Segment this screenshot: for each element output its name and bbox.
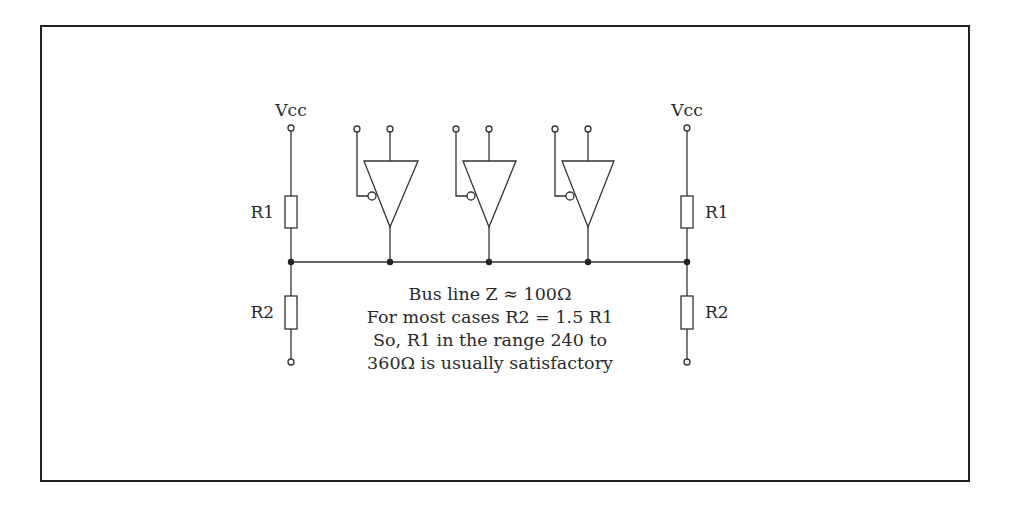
right-r1-label: R1 xyxy=(705,202,729,222)
driver-3-enable-bubble xyxy=(566,192,574,200)
driver-1-enable-bubble xyxy=(368,192,376,200)
driver-3-data-terminal xyxy=(585,126,591,132)
tristate-buffer-driver-2 xyxy=(453,126,516,262)
right-r2-resistor xyxy=(681,296,693,329)
junction-dot-right xyxy=(684,259,690,265)
right-vcc-terminal xyxy=(684,125,690,131)
note-line-1: Bus line Z ≈ 100Ω xyxy=(409,284,572,304)
note-line-4: 360Ω is usually satisfactory xyxy=(367,353,613,373)
left-r1-label: R1 xyxy=(250,202,274,222)
diagram-frame xyxy=(41,26,969,481)
right-r1-resistor xyxy=(681,196,693,228)
left-ground-terminal xyxy=(288,359,294,365)
driver-2-enable-terminal xyxy=(453,126,459,132)
junction-dot-left xyxy=(288,259,294,265)
right-termination-network xyxy=(681,125,693,365)
tristate-buffer-driver-1 xyxy=(354,126,418,262)
left-r2-label: R2 xyxy=(250,302,274,322)
design-notes: Bus line Z ≈ 100Ω For most cases R2 = 1.… xyxy=(367,284,613,373)
note-line-3: So, R1 in the range 240 to xyxy=(373,330,607,350)
driver-1-enable-terminal xyxy=(354,126,360,132)
driver-3-enable-terminal xyxy=(552,126,558,132)
driver-2-enable-bubble xyxy=(467,192,475,200)
left-vcc-terminal xyxy=(288,125,294,131)
left-r1-resistor xyxy=(285,196,297,228)
left-r2-resistor xyxy=(285,296,297,329)
right-ground-terminal xyxy=(684,359,690,365)
left-vcc-label: Vcc xyxy=(274,100,306,120)
tristate-buffer-driver-3 xyxy=(552,126,614,262)
right-r2-label: R2 xyxy=(705,302,729,322)
bus-termination-diagram: Vcc R1 R2 Vcc R1 R2 xyxy=(0,0,1011,507)
note-line-2: For most cases R2 = 1.5 R1 xyxy=(367,307,613,327)
left-termination-network xyxy=(285,125,297,365)
driver-2-data-terminal xyxy=(486,126,492,132)
driver-1-data-terminal xyxy=(387,126,393,132)
right-vcc-label: Vcc xyxy=(670,100,702,120)
